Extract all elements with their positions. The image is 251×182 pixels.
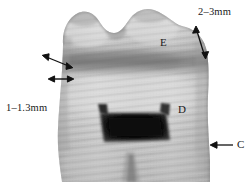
structure-label-dentin: D [178, 104, 186, 115]
structure-label-enamel: E [160, 37, 167, 48]
structure-label-cementum: C [237, 139, 244, 150]
dimension-label-enamel-occlusal: 2–3mm [198, 7, 231, 18]
tooth-specimen-image [0, 0, 251, 182]
dimension-label-enamel-cervical: 1–1.3mm [6, 103, 47, 114]
tooth-cross-section-figure: 2–3mm 1–1.3mm E D C [0, 0, 251, 182]
